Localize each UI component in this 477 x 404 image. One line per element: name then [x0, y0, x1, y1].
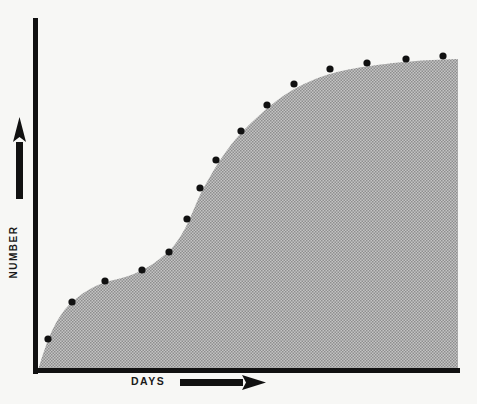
data-point [326, 65, 333, 72]
data-point [101, 277, 108, 284]
y-axis-label-text: NUMBER [8, 226, 19, 279]
data-point [68, 298, 75, 305]
data-point [290, 80, 297, 87]
area-under-curve [38, 59, 458, 370]
data-point [183, 215, 190, 222]
data-point [196, 184, 203, 191]
data-point [439, 52, 446, 59]
data-point [138, 266, 145, 273]
x-axis [33, 368, 460, 373]
y-axis-label: NUMBER [6, 222, 20, 282]
y-axis [33, 18, 38, 374]
up-arrow-icon [13, 117, 26, 199]
data-point [44, 335, 51, 342]
growth-chart [0, 0, 477, 404]
data-point [402, 55, 409, 62]
x-axis-label: DAYS [131, 375, 165, 387]
right-arrow-icon [180, 375, 266, 390]
data-point [363, 59, 370, 66]
data-point [263, 101, 270, 108]
data-point [237, 127, 244, 134]
data-point [212, 156, 219, 163]
data-point [165, 248, 172, 255]
